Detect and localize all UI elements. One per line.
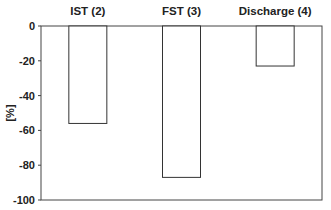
y-tick-label: -80: [19, 159, 35, 171]
category-labels: IST (2)FST (3)Discharge (4): [70, 5, 312, 17]
bar: [163, 26, 201, 177]
category-label: IST (2): [70, 5, 105, 17]
y-tick-label: -40: [19, 90, 35, 102]
y-tick-label: -60: [19, 124, 35, 136]
y-axis-label: [%]: [4, 104, 16, 121]
category-label: Discharge (4): [239, 5, 312, 17]
bar: [256, 26, 294, 66]
bar-chart: 0-20-40-60-80-100 [%] IST (2)FST (3)Disc…: [0, 0, 331, 210]
bar: [69, 26, 107, 123]
category-label: FST (3): [162, 5, 201, 17]
y-tick-label: 0: [29, 20, 35, 32]
y-tick-label: -20: [19, 55, 35, 67]
bars: [69, 26, 294, 177]
y-tick-label: -100: [13, 194, 35, 206]
y-axis-ticks: 0-20-40-60-80-100: [13, 20, 41, 206]
